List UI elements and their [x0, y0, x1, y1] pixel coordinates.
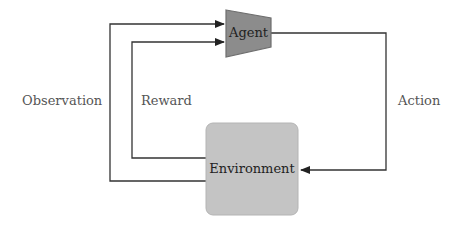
- environment-label: Environment: [206, 161, 298, 176]
- observation-label: Observation: [22, 93, 102, 108]
- action-label: Action: [398, 93, 440, 108]
- reward-label: Reward: [141, 93, 192, 108]
- agent-label: Agent: [226, 25, 271, 40]
